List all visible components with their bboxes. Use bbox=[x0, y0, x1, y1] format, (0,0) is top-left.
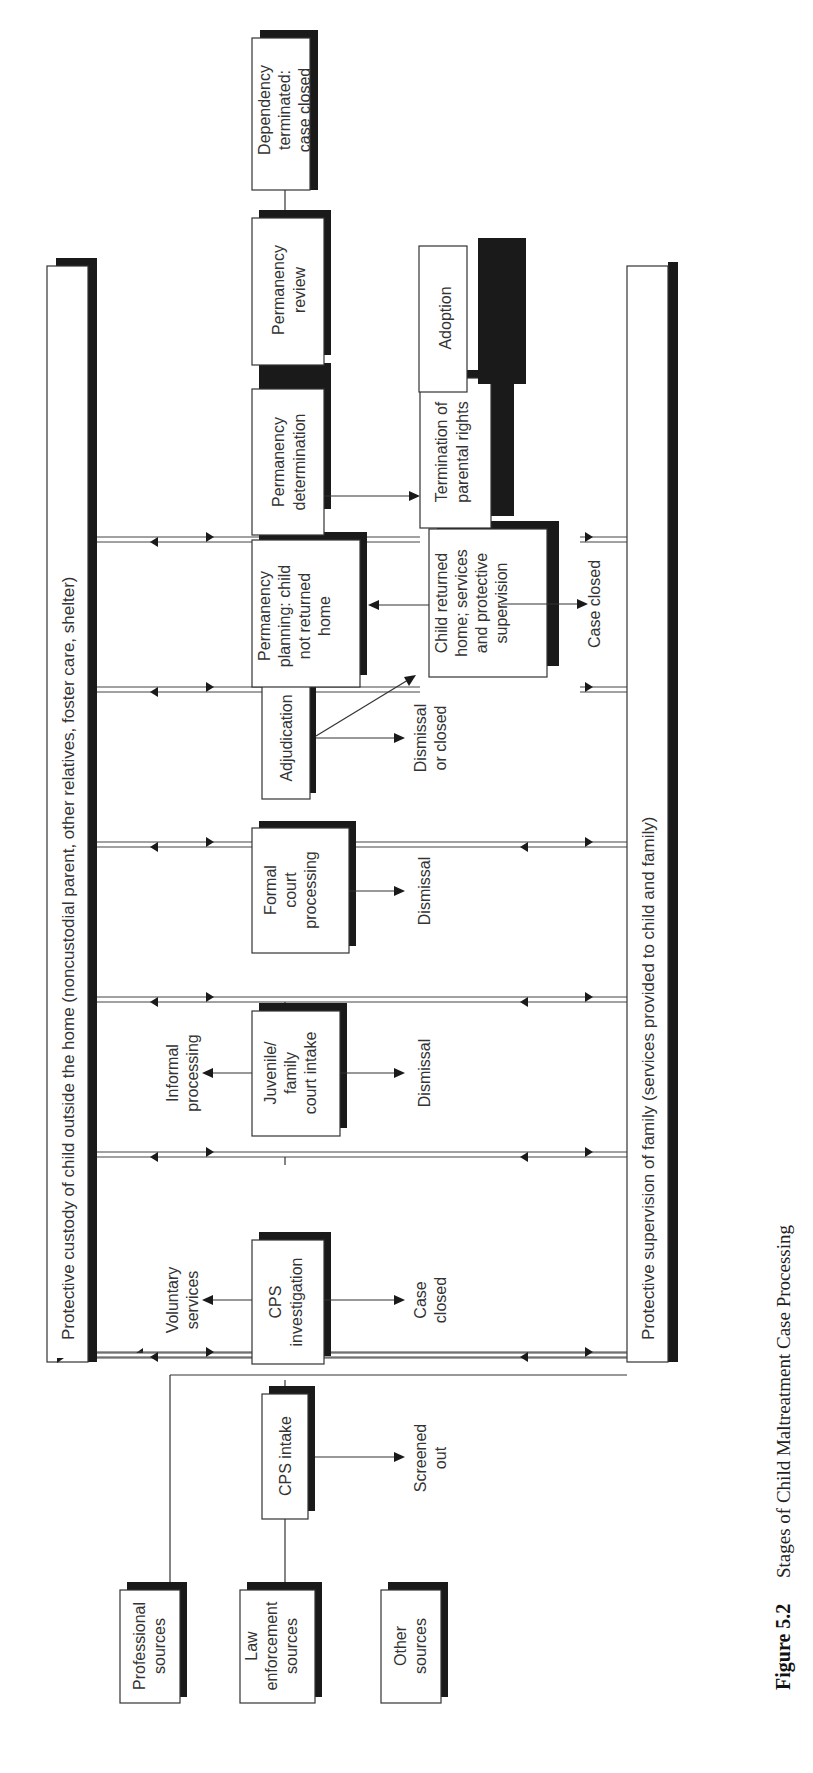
svg-text:sources: sources bbox=[283, 1618, 300, 1674]
stage-adoption: Adoption bbox=[419, 238, 526, 392]
stage-permanency-planning: Permanency planning: child not returned … bbox=[252, 532, 367, 687]
svg-text:parental rights: parental rights bbox=[454, 401, 471, 502]
svg-text:review: review bbox=[291, 266, 308, 313]
source-other: Other sources bbox=[381, 1582, 448, 1703]
svg-text:Formal: Formal bbox=[262, 865, 279, 915]
svg-text:enforcement: enforcement bbox=[263, 1601, 280, 1690]
svg-text:and protective: and protective bbox=[473, 553, 490, 654]
source-law-enforcement: Law enforcement sources bbox=[240, 1582, 322, 1703]
outcome-informal-processing: Informal bbox=[164, 1044, 181, 1102]
svg-text:processing: processing bbox=[184, 1034, 201, 1111]
svg-text:Child returned: Child returned bbox=[433, 553, 450, 654]
svg-text:Termination of: Termination of bbox=[433, 401, 450, 502]
stage-child-returned-home-box: Child returned home; services and protec… bbox=[420, 520, 580, 700]
stage-permanency-determination: Permanency determination bbox=[252, 363, 331, 535]
svg-text:home; services: home; services bbox=[453, 549, 470, 657]
svg-text:sources: sources bbox=[412, 1618, 429, 1674]
stage-cps-investigation: CPS investigation bbox=[252, 1232, 331, 1364]
svg-text:home: home bbox=[316, 596, 333, 636]
svg-text:court intake: court intake bbox=[302, 1032, 319, 1115]
svg-text:investigation: investigation bbox=[288, 1258, 305, 1347]
svg-text:services: services bbox=[184, 1271, 201, 1330]
svg-text:or closed: or closed bbox=[432, 706, 449, 771]
svg-text:Professional: Professional bbox=[131, 1602, 148, 1690]
svg-text:Adoption: Adoption bbox=[437, 286, 454, 349]
stage-juvenile-court-intake: Juvenile/ family court intake bbox=[252, 1003, 347, 1136]
svg-text:planning: child: planning: child bbox=[276, 565, 293, 667]
svg-text:processing: processing bbox=[302, 851, 319, 928]
protective-supervision-label: Protective supervision of family (servic… bbox=[639, 817, 658, 1340]
svg-text:case closed: case closed bbox=[296, 68, 313, 153]
svg-text:Other: Other bbox=[392, 1625, 409, 1666]
stage-cps-intake: CPS intake bbox=[262, 1386, 315, 1519]
svg-text:court: court bbox=[282, 872, 299, 908]
protective-supervision-bar: Protective supervision of family (servic… bbox=[627, 262, 678, 1362]
outcome-dismissal-or-closed: Dismissal bbox=[412, 704, 429, 772]
stage-formal-court-processing: Formal court processing bbox=[252, 821, 356, 953]
svg-text:Juvenile/: Juvenile/ bbox=[262, 1041, 279, 1105]
stage-adjudication: Adjudication bbox=[262, 668, 316, 799]
outcome-case-closed-returned: Case closed bbox=[586, 560, 603, 648]
svg-text:Permanency: Permanency bbox=[256, 571, 273, 661]
svg-text:Permanency: Permanency bbox=[270, 245, 287, 335]
divider-1 bbox=[57, 1348, 627, 1363]
figure-caption: Figure 5.2 Stages of Child Maltreatment … bbox=[772, 1224, 795, 1690]
svg-text:out: out bbox=[432, 1446, 449, 1469]
figure-number: Figure 5.2 bbox=[772, 1604, 795, 1690]
svg-text:supervision: supervision bbox=[493, 563, 510, 644]
outcome-voluntary-services: Voluntary bbox=[164, 1267, 181, 1334]
protective-custody-bar: Protective custody of child outside the … bbox=[47, 258, 97, 1362]
svg-text:family: family bbox=[282, 1052, 299, 1094]
figure-title: Stages of Child Maltreatment Case Proces… bbox=[773, 1224, 794, 1578]
case-processing-diagram: Protective custody of child outside the … bbox=[0, 0, 813, 1773]
outcome-dismissal-intake: Dismissal bbox=[416, 1039, 433, 1107]
outcome-screened-out: Screened bbox=[412, 1424, 429, 1493]
outcome-dismissal-formal: Dismissal bbox=[416, 857, 433, 925]
stage-termination-parental-rights: Termination of parental rights bbox=[420, 370, 514, 528]
svg-text:Adjudication: Adjudication bbox=[278, 694, 295, 781]
svg-text:CPS: CPS bbox=[267, 1286, 284, 1319]
protective-custody-label: Protective custody of child outside the … bbox=[59, 576, 78, 1340]
svg-text:closed: closed bbox=[432, 1277, 449, 1323]
svg-text:Law: Law bbox=[243, 1631, 260, 1661]
svg-text:determination: determination bbox=[291, 414, 308, 511]
stage-dependency-terminated: Dependency terminated: case closed bbox=[252, 30, 318, 190]
svg-text:CPS intake: CPS intake bbox=[277, 1416, 294, 1496]
stage-permanency-review: Permanency review bbox=[252, 210, 331, 365]
outcome-case-closed: Case bbox=[412, 1281, 429, 1318]
stage-dividers bbox=[57, 1348, 627, 1363]
svg-text:terminated:: terminated: bbox=[276, 70, 293, 150]
svg-text:not returned: not returned bbox=[296, 573, 313, 659]
source-professional: Professional sources bbox=[120, 1582, 187, 1703]
svg-text:Dependency: Dependency bbox=[256, 65, 273, 155]
svg-text:sources: sources bbox=[151, 1618, 168, 1674]
svg-text:Permanency: Permanency bbox=[270, 417, 287, 507]
